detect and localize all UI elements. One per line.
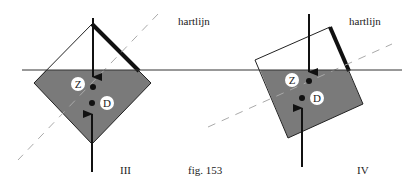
z-label-IV: Z xyxy=(289,74,296,86)
buoyancy-point-III xyxy=(89,100,95,106)
z-label-III: Z xyxy=(75,78,82,90)
axis-label-IV: hartlijn xyxy=(349,15,381,27)
gravity-point-III xyxy=(90,84,96,90)
gravity-point-IV xyxy=(306,78,312,84)
buoyancy-point-IV xyxy=(299,95,305,101)
d-label-IV: D xyxy=(313,92,321,104)
panel-label-III: III xyxy=(120,164,131,176)
figure-caption: fig. 153 xyxy=(188,164,223,176)
panel-IV: Z D hartlijn IV xyxy=(207,14,402,176)
diagram-canvas: Z D hartlijn III fig. 153 Z D hartl xyxy=(0,0,415,185)
panel-label-IV: IV xyxy=(357,164,369,176)
panel-III: Z D hartlijn III xyxy=(18,14,210,176)
axis-label-III: hartlijn xyxy=(178,15,210,27)
d-label-III: D xyxy=(103,97,111,109)
thick-edge-III xyxy=(92,24,139,71)
